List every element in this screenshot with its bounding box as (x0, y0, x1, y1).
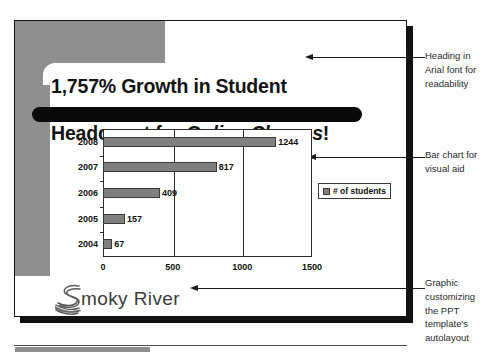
bar-chart: 2008124420078172006409200515720046705001… (70, 123, 330, 283)
chart-bar (103, 214, 125, 224)
chart-x-tick-label: 500 (165, 262, 180, 272)
chart-value-label: 1244 (278, 137, 298, 147)
chart-value-label: 67 (114, 239, 124, 249)
annotation-graphic-autolayout: Graphic customizing the PPT template's a… (425, 276, 503, 345)
legend-swatch-icon (323, 188, 330, 195)
chart-bar-row: 200467 (103, 231, 312, 257)
chart-value-label: 157 (127, 214, 142, 224)
chart-category-label: 2007 (78, 162, 98, 172)
annotation-heading-font: Heading in Arial font for readability (425, 49, 503, 90)
chart-bar (103, 188, 160, 198)
chart-x-tick-label: 1500 (302, 262, 322, 272)
annotation-3-tick (406, 282, 407, 295)
chart-bar (103, 162, 217, 172)
chart-value-label: 409 (162, 188, 177, 198)
chart-legend: # of students (318, 183, 391, 199)
redaction-bar (32, 107, 362, 122)
chart-bar-row: 20081244 (103, 129, 312, 155)
chart-bar-row: 2006409 (103, 180, 312, 206)
chart-bar (103, 137, 276, 147)
logo-wordmark: moky River (81, 288, 180, 310)
chart-x-tick-label: 1000 (232, 262, 252, 272)
chart-category-label: 2008 (78, 137, 98, 147)
chart-bar-row: 2005157 (103, 206, 312, 232)
chart-bar (103, 239, 112, 249)
legend-label: # of students (333, 186, 386, 196)
chart-category-label: 2005 (78, 214, 98, 224)
next-slide-gray-block (15, 347, 150, 352)
annotation-bar-chart: Bar chart for visual aid (425, 148, 503, 176)
title-line-1: 1,757% Growth in Student (51, 75, 287, 97)
chart-value-label: 817 (219, 162, 234, 172)
presentation-slide: 1,757% Growth in Student Headcount for O… (14, 20, 407, 317)
chart-category-label: 2004 (78, 239, 98, 249)
smoky-river-logo: moky River (53, 279, 213, 319)
template-gray-block-left (15, 63, 50, 276)
chart-x-tick-label: 0 (100, 262, 105, 272)
annotation-2-tick (406, 151, 407, 164)
chart-category-label: 2006 (78, 188, 98, 198)
chart-bar-row: 2007817 (103, 155, 312, 181)
annotation-1-tick (406, 51, 407, 64)
